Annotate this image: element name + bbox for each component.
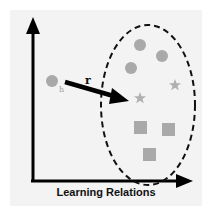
relation-diagram: h r	[0, 0, 212, 214]
y-axis-arrowhead-icon	[26, 17, 40, 34]
diagram-caption: Learning Relations	[0, 186, 212, 198]
tail-entity-star-icon	[134, 92, 146, 103]
y-axis	[26, 17, 40, 182]
tail-entity-star-icon	[169, 79, 181, 90]
tail-entity-circle-icon	[134, 39, 146, 51]
tail-entity-circle-icon	[125, 62, 137, 74]
tail-entity-square-icon	[143, 148, 156, 161]
relation-arrow	[65, 82, 129, 104]
head-entity-label: h	[59, 85, 64, 94]
relation-label: r	[85, 74, 91, 87]
head-entity-circle-icon	[46, 75, 58, 87]
tail-entity-square-icon	[134, 121, 147, 134]
tail-entity-square-icon	[162, 123, 175, 136]
tail-entity-circle-icon	[156, 50, 168, 62]
relation-arrowhead-icon	[109, 88, 129, 104]
